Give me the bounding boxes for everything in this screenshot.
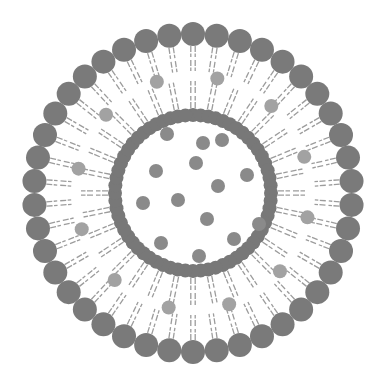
- outer-head-icon: [250, 324, 274, 348]
- tail-line: [156, 65, 159, 76]
- tail-line: [137, 72, 142, 82]
- outer-head-icon: [157, 338, 181, 362]
- core-molecule-icon: [240, 168, 254, 182]
- tail-line: [169, 327, 171, 338]
- tail-line: [83, 173, 95, 175]
- tail-line: [301, 103, 310, 110]
- tail-line: [133, 74, 138, 84]
- outer-head-icon: [340, 169, 364, 193]
- tail-line: [89, 229, 100, 234]
- tail-line: [314, 181, 325, 182]
- tail-line: [173, 328, 175, 339]
- outer-head-icon: [228, 29, 252, 53]
- tail-line: [104, 154, 115, 159]
- tail-line: [252, 255, 260, 263]
- tail-line: [211, 47, 213, 58]
- tail-line: [212, 276, 214, 288]
- tail-line: [55, 141, 65, 145]
- tail-line: [70, 240, 80, 244]
- tail-line: [64, 222, 75, 224]
- outer-head-icon: [336, 216, 360, 240]
- liposome-illustration: [0, 0, 386, 386]
- tail-line: [314, 204, 325, 205]
- tail-line: [173, 47, 175, 58]
- core-molecule-icon: [196, 136, 210, 150]
- tail-line: [46, 201, 57, 202]
- core-molecule-icon: [215, 133, 229, 147]
- tail-line: [291, 169, 303, 171]
- tail-line: [254, 315, 259, 325]
- tail-line: [47, 205, 58, 206]
- outer-head-icon: [271, 50, 295, 74]
- tail-line: [120, 295, 126, 304]
- tail-line: [209, 61, 211, 72]
- outer-head-icon: [112, 38, 136, 62]
- core-molecule-icon: [200, 212, 214, 226]
- tail-line: [176, 277, 178, 289]
- tail-line: [60, 200, 71, 201]
- tail-line: [77, 128, 87, 134]
- tail-line: [228, 104, 233, 115]
- tail-line: [131, 60, 136, 70]
- tail-line: [79, 125, 89, 131]
- outer-head-icon: [340, 193, 364, 217]
- tail-line: [131, 316, 136, 326]
- tail-line: [311, 161, 322, 163]
- tail-line: [292, 210, 304, 212]
- tail-line: [231, 52, 234, 63]
- outer-head-icon: [22, 193, 46, 217]
- bilayer-molecule-icon: [222, 297, 236, 311]
- tail-line: [250, 316, 255, 326]
- tail-line: [68, 236, 78, 240]
- outer-head-icon: [43, 261, 67, 285]
- bilayer-molecule-icon: [300, 210, 314, 224]
- tail-line: [89, 152, 100, 157]
- outer-head-icon: [250, 38, 274, 62]
- tail-line: [97, 176, 109, 178]
- bilayer-molecule-icon: [108, 273, 122, 287]
- tail-line: [65, 259, 75, 265]
- tail-line: [213, 313, 215, 324]
- tail-line: [306, 240, 316, 244]
- tail-line: [70, 142, 80, 146]
- tail-line: [271, 73, 277, 82]
- outer-head-icon: [112, 324, 136, 348]
- tail-line: [83, 210, 95, 212]
- tail-line: [298, 256, 308, 261]
- outer-head-icon: [205, 338, 229, 362]
- core-molecule-icon: [149, 164, 163, 178]
- tail-line: [271, 228, 282, 233]
- tail-line: [271, 154, 282, 159]
- tail-line: [98, 212, 110, 214]
- outer-head-icon: [26, 146, 50, 170]
- tail-line: [156, 310, 159, 321]
- outer-head-icon: [319, 261, 343, 285]
- tail-line: [250, 60, 255, 70]
- inner-head-icon: [178, 108, 192, 122]
- tail-line: [108, 304, 114, 313]
- tail-line: [116, 84, 122, 93]
- tail-line: [244, 304, 249, 314]
- outer-head-icon: [91, 312, 115, 336]
- tail-line: [148, 322, 151, 333]
- tail-line: [277, 176, 289, 178]
- tail-line: [227, 65, 230, 76]
- outer-head-icon: [319, 102, 343, 126]
- tail-line: [233, 285, 238, 296]
- tail-line: [158, 103, 163, 114]
- tail-line: [120, 82, 126, 91]
- tail-line: [108, 73, 114, 82]
- outer-head-icon: [134, 333, 158, 357]
- tail-line: [112, 307, 118, 316]
- tail-line: [307, 146, 317, 150]
- tail-line: [112, 115, 120, 123]
- tail-line: [228, 271, 233, 282]
- tail-line: [50, 158, 61, 160]
- tail-line: [227, 310, 230, 321]
- tail-line: [231, 67, 234, 78]
- core-molecule-icon: [136, 196, 150, 210]
- tail-line: [307, 236, 317, 240]
- tail-line: [68, 146, 78, 150]
- tail-line: [306, 142, 316, 146]
- outer-head-icon: [57, 280, 81, 304]
